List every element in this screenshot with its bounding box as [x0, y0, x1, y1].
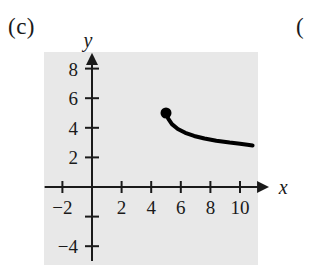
x-axis-tick-label: −2 [52, 197, 72, 218]
curve-path [166, 113, 253, 146]
x-axis-tick-label: 8 [206, 197, 216, 218]
x-axis-tick-label: 4 [146, 197, 156, 218]
y-axis-tick-label: 2 [69, 147, 79, 168]
data-points-layer [161, 108, 172, 119]
curve-layer [166, 113, 253, 146]
ticks-layer [62, 69, 240, 247]
closed-endpoint-dot [161, 108, 172, 119]
x-axis-tick-label: 6 [176, 197, 186, 218]
x-axis-tick-label: 10 [231, 197, 250, 218]
y-axis-tick-label: −4 [58, 236, 79, 257]
y-axis-tick-label: 6 [69, 88, 79, 109]
y-axis-tick-label: 8 [69, 59, 79, 80]
axis-names-layer: xy [82, 29, 288, 198]
y-axis-tick-label: 4 [69, 118, 79, 139]
figure-panel-c: (c) ( −2246810−42468 xy [0, 0, 309, 274]
y-axis-name: y [82, 29, 93, 52]
x-axis-tick-label: 2 [117, 197, 127, 218]
tick-labels-layer: −2246810−42468 [52, 59, 249, 258]
coordinate-plot: −2246810−42468 xy [0, 0, 309, 274]
x-axis-name: x [278, 176, 288, 198]
